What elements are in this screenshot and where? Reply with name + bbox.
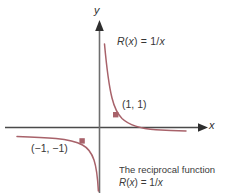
figure-caption: The reciprocal function R(x) = 1/x <box>119 164 226 189</box>
caption-formula-arg: (x) <box>126 177 138 188</box>
function-arg-text: (x) <box>125 35 138 47</box>
caption-formula-eq: = 1/ <box>138 177 158 188</box>
caption-line-1: The reciprocal function <box>119 164 215 175</box>
x-axis-arrow-icon <box>198 123 208 132</box>
curve-branch-positive <box>105 44 187 131</box>
caption-formula-var: x <box>158 177 163 188</box>
function-eq-text: = 1/ <box>138 35 160 47</box>
point-label-1-1: (1, 1) <box>122 99 147 110</box>
caption-formula: R(x) = 1/x <box>119 176 226 189</box>
function-equation-label: R(x) = 1/x <box>117 36 165 47</box>
x-axis-label: x <box>209 120 215 132</box>
point-marker-1-1 <box>113 112 118 117</box>
point-label-neg1-neg1: (−1, −1) <box>31 143 68 154</box>
function-var-text: x <box>159 35 164 47</box>
function-name-text: R <box>117 35 125 47</box>
y-axis-arrow-icon <box>95 20 104 31</box>
point-marker-neg1-neg1 <box>79 138 84 143</box>
y-axis-label: y <box>94 5 100 17</box>
reciprocal-function-figure: y x R(x) = 1/x (1, 1) (−1, −1) The recip… <box>0 0 226 193</box>
